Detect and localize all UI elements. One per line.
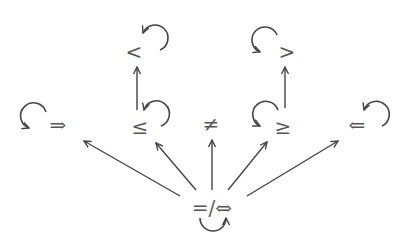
self-loop-lt bbox=[143, 25, 168, 50]
self-loop-implies bbox=[21, 103, 46, 128]
node-impliedby: ⇐ bbox=[349, 113, 366, 137]
node-ge: ≥ bbox=[275, 115, 292, 139]
self-loop-impliedby bbox=[364, 101, 389, 126]
node-root: =/⇔ bbox=[192, 196, 232, 220]
edge-root-to-le bbox=[156, 143, 196, 190]
edge-root-to-implies bbox=[84, 141, 180, 196]
node-lt: < bbox=[126, 40, 143, 64]
node-ne: ≠ bbox=[203, 112, 220, 136]
self-loop-gt bbox=[252, 27, 277, 52]
node-gt: > bbox=[279, 40, 296, 64]
edge-root-to-ge bbox=[228, 142, 267, 190]
node-implies: ⇒ bbox=[50, 113, 67, 137]
relation-diagram: < > ⇒ ≤ ≠ ≥ ⇐ =/⇔ bbox=[0, 0, 416, 251]
node-le: ≤ bbox=[132, 115, 149, 139]
